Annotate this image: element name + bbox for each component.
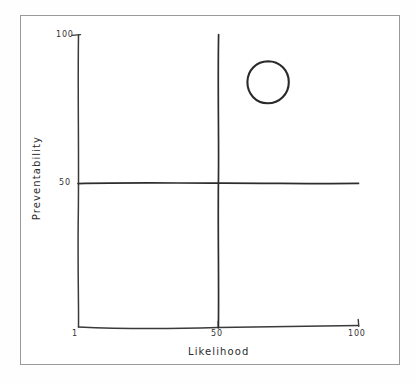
chart-scan-page: 100 50 1 50 100 Likelihood Preventabilit… [0, 0, 416, 383]
y-axis-tick-label-50: 50 [59, 179, 71, 187]
y-axis-tick-label-100: 100 [56, 31, 74, 39]
x-axis-tick-label-100: 100 [348, 330, 366, 338]
x-axis-tick-label-50: 50 [211, 330, 223, 338]
chart-frame-border [20, 15, 400, 365]
y-axis-title: Preventability [32, 136, 42, 220]
x-axis-title: Likelihood [188, 347, 249, 357]
x-axis-tick-label-1: 1 [72, 330, 78, 338]
